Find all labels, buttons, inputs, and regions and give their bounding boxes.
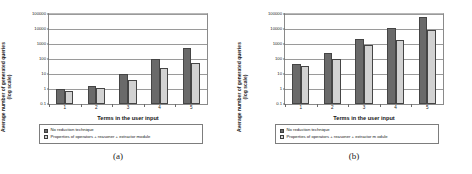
figure-panel-a: Average number of generated queries (log… bbox=[0, 0, 236, 174]
x-axis-tick-mark bbox=[81, 104, 82, 107]
bar bbox=[183, 48, 192, 104]
x-axis-tick-mark bbox=[49, 104, 50, 107]
legend-item-label: No reduction technique bbox=[287, 128, 330, 132]
plot-frame-b: 0.111010010001000010000012345 bbox=[284, 13, 444, 105]
x-axis-title-a: Terms in the user input bbox=[48, 115, 208, 121]
panel-caption-b: (b) bbox=[236, 151, 472, 161]
bar bbox=[128, 80, 137, 104]
plot-frame-a: 0.111010010001000010000012345 bbox=[48, 13, 208, 105]
y-axis-tick-label: 100 bbox=[275, 57, 282, 61]
bar bbox=[427, 30, 436, 104]
y-axis-tick-mark bbox=[47, 29, 49, 30]
bar bbox=[396, 40, 405, 104]
bar bbox=[65, 91, 74, 104]
legend-item: No reduction technique bbox=[44, 128, 199, 134]
x-axis-tick-mark bbox=[317, 104, 318, 107]
y-axis-tick-label: 100000 bbox=[268, 12, 282, 16]
y-axis-tick-label: 0.1 bbox=[276, 102, 282, 106]
x-axis-tick-mark bbox=[411, 104, 412, 107]
bar bbox=[364, 45, 373, 104]
x-axis-title-b: Terms in the user input bbox=[284, 115, 444, 121]
x-axis-tick-label: 4 bbox=[158, 106, 161, 111]
bar bbox=[119, 74, 128, 104]
y-axis-tick-label: 100 bbox=[39, 57, 46, 61]
x-axis-tick-mark bbox=[112, 104, 113, 107]
x-axis-tick-label: 3 bbox=[127, 106, 130, 111]
y-gridline bbox=[49, 29, 207, 30]
x-axis-tick-label: 2 bbox=[95, 106, 98, 111]
x-axis-tick-label: 2 bbox=[331, 106, 334, 111]
y-axis-tick-mark bbox=[283, 14, 285, 15]
y-axis-tick-mark bbox=[47, 44, 49, 45]
y-axis-title-a: Average number of generated queries (log… bbox=[0, 26, 12, 148]
bar bbox=[292, 64, 301, 104]
y-axis-title-line2-b: (log scale) bbox=[242, 75, 248, 100]
y-axis-tick-label: 10000 bbox=[270, 27, 282, 31]
x-axis-tick-mark bbox=[285, 104, 286, 107]
x-axis-tick-mark bbox=[348, 104, 349, 107]
legend-swatch-icon bbox=[280, 129, 284, 133]
bar bbox=[151, 59, 160, 104]
panel-caption-a: (a) bbox=[0, 151, 236, 161]
legend-item: No reduction technique bbox=[280, 128, 435, 134]
bar bbox=[56, 89, 65, 104]
plot-area-b: 0.111010010001000010000012345 bbox=[284, 13, 444, 105]
x-axis-tick-label: 3 bbox=[363, 106, 366, 111]
y-gridline bbox=[49, 14, 207, 15]
legend-swatch-icon bbox=[44, 129, 48, 133]
y-gridline bbox=[49, 44, 207, 45]
bar bbox=[96, 88, 105, 104]
legend-item-label: Properties of operators + reasoner + ext… bbox=[287, 135, 388, 139]
y-gridline bbox=[285, 14, 443, 15]
y-axis-title-line1-a: Average number of generated queries bbox=[0, 42, 6, 132]
legend-item-label: No reduction technique bbox=[51, 128, 94, 132]
x-axis-tick-mark bbox=[380, 104, 381, 107]
y-axis-title-b: Average number of generated queries (log… bbox=[236, 26, 249, 148]
legend-item: Properties of operators + reasoner + ext… bbox=[280, 134, 435, 140]
x-axis-tick-label: 5 bbox=[190, 106, 193, 111]
legend-swatch-icon bbox=[44, 135, 48, 139]
x-axis-tick-label: 1 bbox=[64, 106, 67, 111]
y-axis-tick-label: 1 bbox=[280, 87, 282, 91]
bar bbox=[88, 86, 97, 104]
y-axis-tick-mark bbox=[283, 29, 285, 30]
y-axis-tick-mark bbox=[283, 44, 285, 45]
y-axis-tick-mark bbox=[47, 89, 49, 90]
figure-container: Average number of generated queries (log… bbox=[0, 0, 472, 174]
y-axis-tick-label: 10 bbox=[277, 72, 282, 76]
bar bbox=[191, 63, 200, 104]
x-axis-tick-mark bbox=[175, 104, 176, 107]
y-axis-tick-mark bbox=[47, 14, 49, 15]
y-axis-tick-label: 1000 bbox=[37, 42, 46, 46]
legend-b: No reduction technique Properties of ope… bbox=[275, 124, 439, 144]
legend-item: Properties of operators + reasoner + ext… bbox=[44, 134, 199, 140]
legend-swatch-icon bbox=[280, 135, 284, 139]
x-axis-tick-label: 5 bbox=[426, 106, 429, 111]
x-axis-tick-mark bbox=[144, 104, 145, 107]
bar bbox=[332, 59, 341, 104]
y-axis-tick-mark bbox=[283, 59, 285, 60]
y-axis-tick-mark bbox=[283, 89, 285, 90]
bar bbox=[419, 17, 428, 104]
x-axis-tick-label: 4 bbox=[394, 106, 397, 111]
y-axis-tick-label: 100000 bbox=[32, 12, 46, 16]
y-axis-tick-label: 0.1 bbox=[40, 102, 46, 106]
x-axis-tick-label: 1 bbox=[300, 106, 303, 111]
y-axis-tick-label: 10 bbox=[41, 72, 46, 76]
bar bbox=[301, 66, 310, 104]
y-axis-tick-label: 1000 bbox=[273, 42, 282, 46]
bar bbox=[324, 53, 333, 104]
figure-panel-b: Average number of generated queries (log… bbox=[236, 0, 472, 174]
y-axis-tick-label: 10000 bbox=[34, 27, 46, 31]
y-axis-title-line1-b: Average number of generated queries bbox=[236, 42, 242, 132]
legend-a: No reduction technique Properties of ope… bbox=[39, 124, 203, 144]
plot-area-a: 0.111010010001000010000012345 bbox=[48, 13, 208, 105]
legend-item-label: Properties of operators + reasoner + ext… bbox=[51, 135, 151, 139]
bar bbox=[387, 28, 396, 104]
y-axis-tick-mark bbox=[47, 59, 49, 60]
y-axis-tick-label: 1 bbox=[44, 87, 46, 91]
bar bbox=[160, 68, 169, 104]
y-axis-tick-mark bbox=[47, 74, 49, 75]
y-axis-tick-mark bbox=[283, 74, 285, 75]
bar bbox=[355, 39, 364, 104]
